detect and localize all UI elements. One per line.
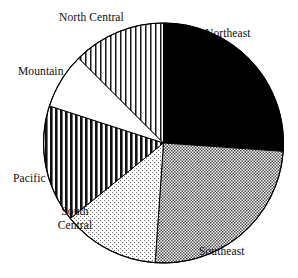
pie-label-north-central: North Central (59, 11, 124, 24)
pie-label-pacific: Pacific (13, 172, 46, 185)
pie-label-mountain: Mountain (18, 65, 64, 78)
pie-slice-northeast (164, 23, 284, 151)
pie-label-southeast: Southeast (199, 245, 245, 258)
pie-label-south-central-line1: South (61, 205, 88, 217)
pie-label-northeast: Northeast (205, 27, 251, 40)
pie-label-south-central: South Central (47, 205, 103, 232)
pie-chart-canvas (0, 0, 298, 278)
pie-label-south-central-line2: Central (58, 219, 93, 231)
pie-chart-figure: North Central Northeast Mountain Pacific… (0, 0, 298, 278)
